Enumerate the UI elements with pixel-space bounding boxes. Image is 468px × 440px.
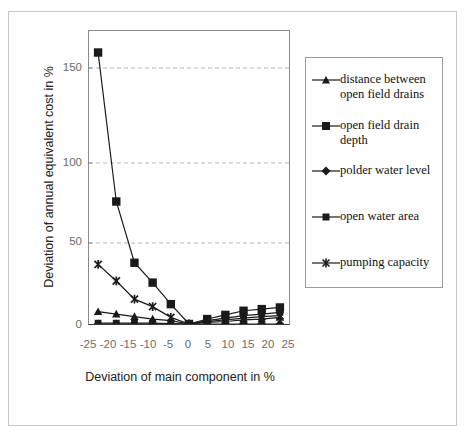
diamond-marker-icon xyxy=(312,164,340,178)
asterisk-data-point xyxy=(131,295,138,304)
legend-item-polder-water-level[interactable]: polder water level xyxy=(312,163,440,178)
x-tick-label-25: 25 xyxy=(273,338,303,350)
data-series-layer xyxy=(94,48,285,324)
legend-label-3: open water area xyxy=(340,209,419,224)
y-tick-label-50: 50 xyxy=(52,236,82,247)
square-data-point xyxy=(167,300,175,308)
legend-label-0: distance between open field drains xyxy=(340,72,426,101)
asterisk-data-point xyxy=(113,277,120,286)
triangle-marker-icon xyxy=(312,73,340,87)
square-small-data-point xyxy=(131,320,138,324)
plot-area xyxy=(88,30,290,325)
chart-legend: distance between open field drains open … xyxy=(305,57,443,288)
series-1 xyxy=(94,48,284,324)
chart-figure: 150 100 50 0 Deviation of annual equival… xyxy=(0,0,468,440)
legend-item-distance-between-open-field-drains[interactable]: distance between open field drains xyxy=(312,72,440,101)
asterisk-data-point xyxy=(167,313,174,322)
gridlines xyxy=(89,68,289,243)
legend-item-open-field-drain-depth[interactable]: open field drain depth xyxy=(312,118,440,147)
asterisk-marker-icon xyxy=(312,256,340,270)
legend-item-pumping-capacity[interactable]: pumping capacity xyxy=(312,255,440,270)
square-data-point xyxy=(148,278,156,286)
y-axis-title: Deviation of annual equivalent cost in % xyxy=(42,52,56,302)
square-marker-icon xyxy=(312,119,340,133)
plot-canvas xyxy=(89,31,289,324)
legend-label-2: polder water level xyxy=(340,163,430,178)
legend-item-open-water-area[interactable]: open water area xyxy=(312,209,440,224)
x-axis-title: Deviation of main component in % xyxy=(30,370,330,384)
series-line xyxy=(98,53,280,324)
legend-label-1: open field drain depth xyxy=(340,118,419,147)
y-tick-marks xyxy=(89,68,92,243)
square-small-data-point xyxy=(95,320,102,324)
square-data-point xyxy=(130,259,138,267)
x-axis: -25 -20 -15 -10 -5 0 5 10 15 20 25 xyxy=(88,338,290,354)
asterisk-data-point xyxy=(149,302,156,311)
y-tick-label-150: 150 xyxy=(52,62,82,73)
square-small-data-point xyxy=(149,320,156,324)
asterisk-data-point xyxy=(94,260,101,269)
square-data-point xyxy=(94,48,102,56)
square-data-point xyxy=(112,197,120,205)
y-tick-label-0: 0 xyxy=(52,319,82,330)
triangle-data-point xyxy=(94,307,102,315)
square-small-marker-icon xyxy=(312,210,340,224)
square-small-data-point xyxy=(113,320,120,324)
legend-label-4: pumping capacity xyxy=(340,255,429,270)
y-tick-label-100: 100 xyxy=(52,157,82,168)
